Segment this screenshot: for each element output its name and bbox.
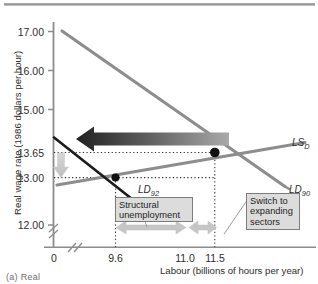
plot-area	[0, 0, 318, 284]
callout-structural-unemployment: Structural unemployment	[115, 197, 193, 222]
curve-lsd	[57, 143, 305, 186]
x-axis-title: Labour (billions of hours per year)	[160, 265, 303, 276]
y-tick-label-15: 15.00	[2, 104, 44, 116]
x-tick-label-11-0: 11.0	[170, 252, 200, 264]
equilibrium-point-1992	[112, 174, 120, 182]
caption-fragment: (a) Real	[6, 272, 156, 283]
curve-label-lsd: LSD	[292, 137, 310, 151]
y-tick-label-16: 16.00	[2, 65, 44, 77]
x-tick-label-0: 0	[39, 252, 69, 264]
equilibrium-point-1990	[210, 148, 220, 158]
y-axis-title: Real wage rate (1986 dollars per hour)	[12, 51, 23, 215]
y-tick-label-13-00: 13.00	[2, 172, 44, 184]
y-tick-label-17: 17.00	[2, 26, 44, 38]
figure-panel: 17.00 16.00 15.00 13.65 13.00 12.00 0 9.…	[0, 0, 318, 284]
switch-sectors-arrow-icon	[189, 221, 217, 234]
curve-ld90	[62, 31, 285, 187]
chart-svg	[0, 0, 318, 284]
x-tick-label-9-6: 9.6	[101, 252, 131, 264]
structural-unemployment-arrow-icon	[116, 221, 186, 234]
x-tick-label-11-5: 11.5	[200, 252, 230, 264]
callout-switch-sectors: Switch to expanding sectors	[246, 193, 300, 230]
switch-callout-leader	[224, 199, 248, 234]
y-tick-label-12: 12.00	[2, 219, 44, 231]
y-tick-label-13-65: 13.65	[2, 147, 44, 159]
wage-fall-arrow-icon	[54, 153, 69, 178]
